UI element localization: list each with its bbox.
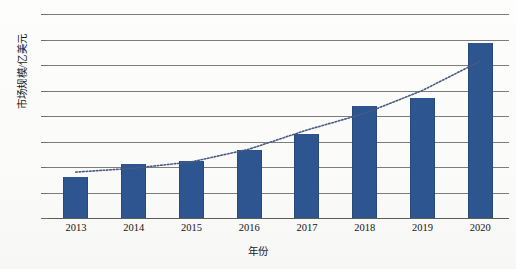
y-axis-tick-mark bbox=[41, 91, 47, 92]
x-axis-tick-label-2014: 2014 bbox=[105, 222, 163, 233]
bar-2017 bbox=[294, 134, 319, 218]
bar-2018 bbox=[352, 106, 377, 218]
y-axis-tick-mark bbox=[41, 14, 47, 15]
y-axis-tick-mark bbox=[41, 65, 47, 66]
x-axis-tick-label-2017: 2017 bbox=[278, 222, 336, 233]
gridline bbox=[47, 116, 509, 117]
gridline bbox=[47, 14, 509, 15]
x-axis-tick-label-2018: 2018 bbox=[336, 222, 394, 233]
y-axis-tick-mark bbox=[41, 218, 47, 219]
plot-area: 0246810121416 bbox=[47, 14, 509, 218]
x-axis-tick-label-2013: 2013 bbox=[47, 222, 105, 233]
bar-2019 bbox=[410, 98, 435, 218]
x-axis-tick-label-2016: 2016 bbox=[220, 222, 278, 233]
y-axis-tick-mark bbox=[41, 167, 47, 168]
bar-2016 bbox=[237, 150, 262, 218]
bar-2020 bbox=[468, 43, 493, 218]
x-axis-tick-label-2019: 2019 bbox=[393, 222, 451, 233]
gridline bbox=[47, 167, 509, 168]
gridline bbox=[47, 142, 509, 143]
x-axis-title: 年份 bbox=[0, 243, 516, 258]
bar-2014 bbox=[121, 164, 146, 218]
bar-2015 bbox=[179, 161, 204, 218]
y-axis-tick-mark bbox=[41, 40, 47, 41]
y-axis-tick-mark bbox=[41, 193, 47, 194]
chart-container: 市场规模/亿美元 0246810121416 20132014201520162… bbox=[0, 0, 516, 269]
x-axis-tick-label-2015: 2015 bbox=[162, 222, 220, 233]
gridline bbox=[47, 193, 509, 194]
bar-2013 bbox=[63, 177, 88, 218]
gridline bbox=[47, 65, 509, 66]
y-axis-title: 市场规模/亿美元 bbox=[14, 7, 29, 137]
y-axis-tick-mark bbox=[41, 116, 47, 117]
x-axis-tick-label-2020: 2020 bbox=[451, 222, 509, 233]
gridline bbox=[47, 91, 509, 92]
y-axis-tick-mark bbox=[41, 142, 47, 143]
gridline bbox=[47, 40, 509, 41]
gridline bbox=[47, 218, 509, 219]
